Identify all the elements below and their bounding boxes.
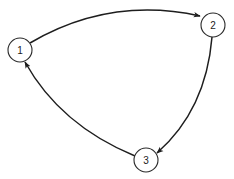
edge-3-to-1 (25, 62, 135, 156)
node-2-label: 2 (210, 20, 216, 31)
edge-2-to-3 (157, 37, 212, 153)
node-1-label: 1 (17, 45, 23, 56)
node-2: 2 (201, 13, 225, 37)
node-1: 1 (8, 38, 32, 62)
cycle-diagram: 1 2 3 (0, 0, 234, 179)
node-3-label: 3 (143, 155, 149, 166)
edge-1-to-2 (30, 10, 200, 43)
node-3: 3 (134, 148, 158, 172)
